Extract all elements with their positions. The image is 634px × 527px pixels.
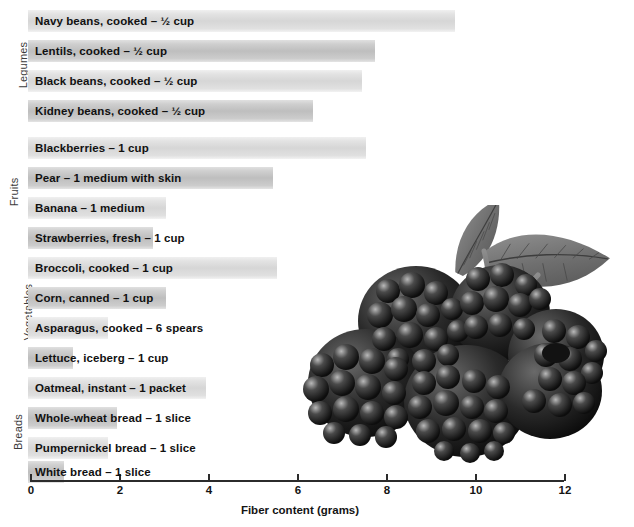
bar-label: Navy beans, cooked – ½ cup xyxy=(35,10,194,32)
bar-label: Oatmeal, instant – 1 packet xyxy=(35,377,186,399)
x-axis-tick-label: 4 xyxy=(206,484,212,496)
x-axis-tick-label: 12 xyxy=(559,484,572,496)
bar-row: Lettuce, iceberg – 1 cup xyxy=(28,347,73,369)
bar-label: Black beans, cooked – ½ cup xyxy=(35,70,198,92)
bar-label: Corn, canned – 1 cup xyxy=(35,287,153,309)
leaf-group xyxy=(438,205,612,313)
bar-label: Banana – 1 medium xyxy=(35,197,145,219)
bar-row: Strawberries, fresh – 1 cup xyxy=(28,227,153,249)
fiber-content-bar-chart: Legumes Fruits Vegetables Breads Navy be… xyxy=(0,0,634,527)
group-label-fruits: Fruits xyxy=(0,137,22,247)
group-label-breads: Breads xyxy=(0,377,22,487)
group-label-legumes: Legumes xyxy=(0,10,22,120)
x-axis-tick xyxy=(208,474,210,481)
group-label-vegetables: Vegetables xyxy=(0,257,22,367)
bar-label: Strawberries, fresh – 1 cup xyxy=(35,227,185,249)
x-axis-tick xyxy=(386,474,388,481)
bar-row: Asparagus, cooked – 6 spears xyxy=(28,317,108,339)
bar-row: Corn, canned – 1 cup xyxy=(28,287,166,309)
bar-label: Broccoli, cooked – 1 cup xyxy=(35,257,173,279)
x-axis-tick xyxy=(475,474,477,481)
berry-cluster xyxy=(303,263,607,463)
bar-row: Navy beans, cooked – ½ cup xyxy=(28,10,455,32)
bar-row: Black beans, cooked – ½ cup xyxy=(28,70,362,92)
bar-label: Whole-wheat bread – 1 slice xyxy=(35,407,191,429)
bar-label: Kidney beans, cooked – ½ cup xyxy=(35,100,205,122)
bar-row: Kidney beans, cooked – ½ cup xyxy=(28,100,313,122)
bar-label: Lentils, cooked – ½ cup xyxy=(35,40,167,62)
x-axis-tick xyxy=(30,474,32,481)
bar-row: Broccoli, cooked – 1 cup xyxy=(28,257,277,279)
x-axis-tick-label: 8 xyxy=(384,484,390,496)
x-axis-tick xyxy=(564,474,566,481)
bar-row: Oatmeal, instant – 1 packet xyxy=(28,377,206,399)
x-axis-tick-label: 2 xyxy=(117,484,123,496)
x-axis-tick-label: 0 xyxy=(28,484,34,496)
bar-row: Pumpernickel bread – 1 slice xyxy=(28,437,108,459)
bar-label: Blackberries – 1 cup xyxy=(35,137,149,159)
blackberries-photo xyxy=(288,205,628,473)
bar-row: Pear – 1 medium with skin xyxy=(28,167,273,189)
bar-label: White bread – 1 slice xyxy=(35,461,151,483)
bar-row: Blackberries – 1 cup xyxy=(28,137,366,159)
bar-row: Lentils, cooked – ½ cup xyxy=(28,40,375,62)
bar-label: Asparagus, cooked – 6 spears xyxy=(35,317,203,339)
bar-label: Pear – 1 medium with skin xyxy=(35,167,181,189)
x-axis-tick xyxy=(297,474,299,481)
x-axis-tick-label: 6 xyxy=(295,484,301,496)
x-axis-title: Fiber content (grams) xyxy=(0,504,600,516)
bar-label: Lettuce, iceberg – 1 cup xyxy=(35,347,168,369)
bar-label: Pumpernickel bread – 1 slice xyxy=(35,437,196,459)
x-axis-tick-label: 10 xyxy=(470,484,483,496)
bar-row: Banana – 1 medium xyxy=(28,197,166,219)
bar-row: Whole-wheat bread – 1 slice xyxy=(28,407,117,429)
